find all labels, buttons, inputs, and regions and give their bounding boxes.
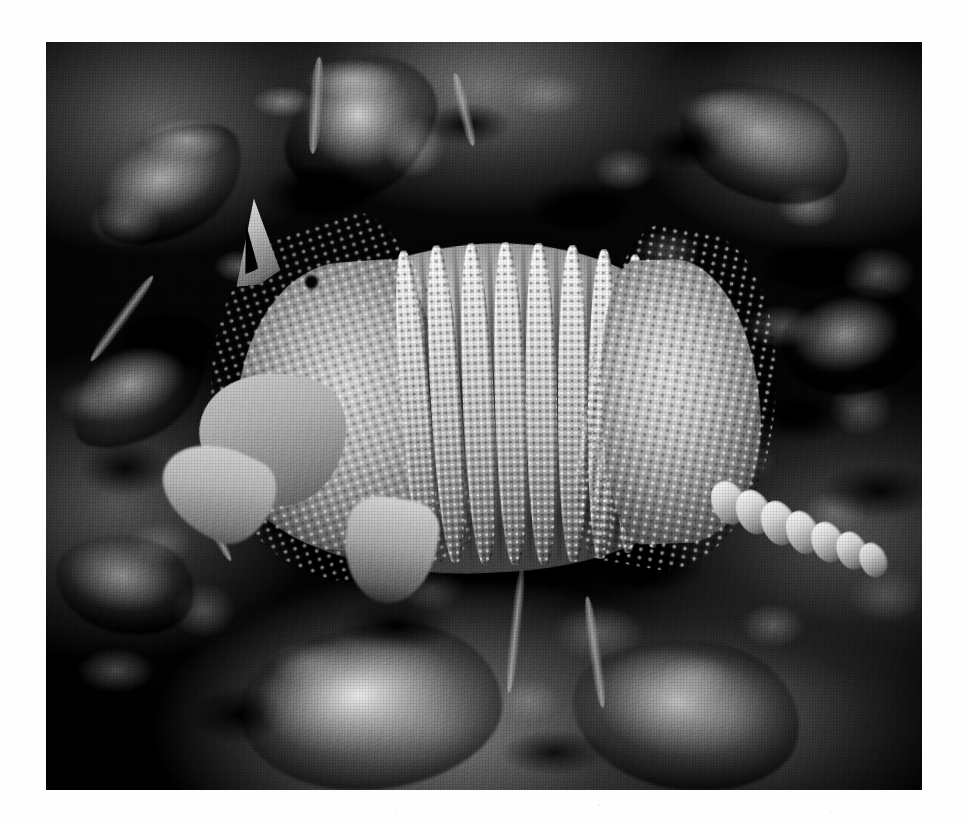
page bbox=[0, 0, 966, 826]
film-grain bbox=[46, 42, 922, 790]
armadillo-photograph bbox=[46, 42, 922, 790]
photo-content bbox=[46, 42, 922, 790]
